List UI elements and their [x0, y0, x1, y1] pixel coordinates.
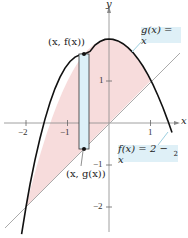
f-function-label: f(x) = 2 − x2	[118, 145, 178, 162]
x-tick-neg2: −2	[18, 127, 28, 137]
x-axis-arrow-icon	[174, 121, 180, 125]
f-exponent: 2	[174, 150, 178, 158]
bottom-label-leader	[81, 151, 83, 166]
top-point-dot	[82, 52, 86, 56]
y-axis-label: y	[106, 0, 112, 9]
x-tick-pos1: 1	[148, 127, 153, 137]
g-function-text: g(x) = x	[141, 24, 181, 46]
y-tick-1: 1	[99, 75, 104, 85]
top-point-label: (x, f(x))	[48, 36, 85, 47]
representative-rectangle	[79, 54, 89, 149]
y-tick-neg2: −2	[93, 201, 103, 211]
x-axis-label: x	[181, 115, 187, 126]
bottom-point-label: (x, g(x))	[66, 168, 106, 179]
g-function-label: g(x) = x	[141, 27, 181, 43]
x-tick-neg1: −1	[60, 127, 70, 137]
bottom-point-dot	[82, 147, 86, 151]
f-function-text: f(x) = 2 − x	[118, 143, 174, 165]
